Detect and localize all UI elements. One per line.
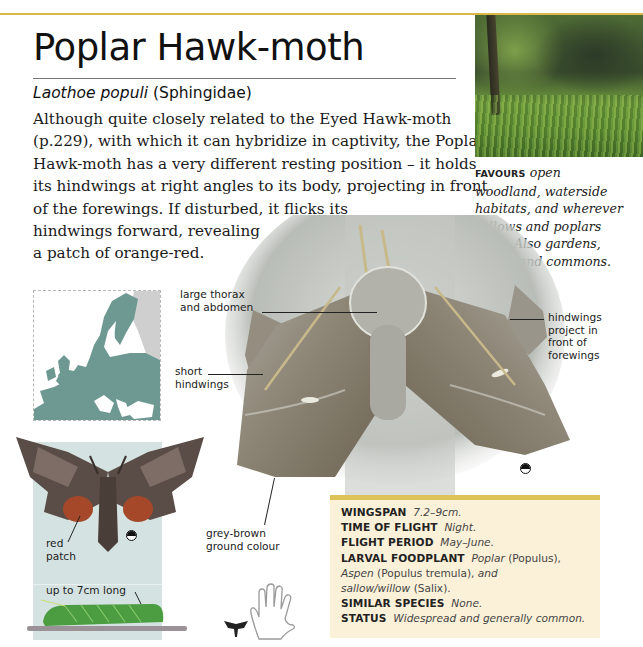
meadow-grass — [475, 95, 643, 157]
facts-list: WINGSPAN 7.2–9cm. TIME OF FLIGHT Night. … — [341, 505, 599, 627]
leader-line — [262, 312, 377, 313]
favours-label: FAVOURS — [475, 168, 526, 179]
intro-line: (p.229), with which it can hybridize in … — [33, 130, 463, 152]
half-moon-icon — [126, 530, 137, 541]
scientific-name: Laothoe populi (Sphingidae) — [33, 84, 252, 102]
family-name: (Sphingidae) — [153, 84, 252, 102]
habitat-text: habitats, and wherever — [475, 201, 623, 216]
hand-icon — [247, 583, 297, 641]
half-moon-icon — [520, 463, 531, 474]
fact-row-similar-species: SIMILAR SPECIES None. — [341, 596, 599, 611]
habitat-text: open — [530, 165, 561, 180]
fact-row-larval-foodplant: LARVAL FOODPLANT Poplar (Populus),Aspen … — [341, 551, 599, 597]
page-title: Poplar Hawk-moth — [33, 26, 364, 70]
specimen-panel: red patch up to 7cm long — [0, 432, 205, 642]
annotation-thorax: large thorax and abdomen — [180, 288, 253, 313]
intro-line: Although quite closely related to the Ey… — [33, 108, 463, 130]
facts-panel: WINGSPAN 7.2–9cm. TIME OF FLIGHT Night. … — [330, 495, 600, 638]
leader-line — [208, 374, 263, 375]
fact-row-status: STATUS Widespread and generally common. — [341, 611, 599, 626]
annotation-hindwings-project: hindwings project in front of forewings — [548, 311, 602, 361]
fact-row-flight-period: FLIGHT PERIOD May–June. — [341, 535, 599, 550]
moth-spread-specimen — [8, 432, 208, 552]
species-binomial: Laothoe populi — [33, 84, 148, 102]
moth-silhouette-icon — [222, 620, 250, 638]
fact-row-wingspan: WINGSPAN 7.2–9cm. — [341, 505, 599, 520]
europe-map-icon — [34, 291, 161, 421]
annotation-short-hindwings: short hindwings — [175, 365, 229, 390]
caterpillar-illustration — [25, 592, 190, 642]
facts-accent-bar — [330, 495, 600, 500]
habitat-text: woodland, waterside — [475, 184, 608, 199]
fact-row-time-of-flight: TIME OF FLIGHT Night. — [341, 520, 599, 535]
annotation-ground-colour: grey-brown ground colour — [206, 527, 280, 552]
moth-photo-resting — [225, 215, 570, 495]
intro-line: its hindwings at right angles to its bod… — [33, 175, 463, 197]
leader-line — [510, 319, 544, 320]
habitat-photo — [475, 15, 643, 157]
annotation-red-patch: red patch — [46, 537, 76, 562]
intro-line: Hawk-moth has a very different resting p… — [33, 153, 463, 175]
title-divider — [33, 78, 456, 79]
distribution-map — [33, 290, 161, 421]
